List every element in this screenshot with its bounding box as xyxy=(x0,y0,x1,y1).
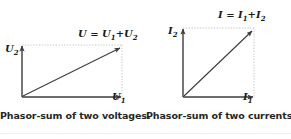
resultant-vector-u xyxy=(23,48,120,96)
x-axis-label-u1: U1 xyxy=(112,92,126,102)
caption-voltages: Phasor-sum of two voltages. xyxy=(0,110,145,121)
panel-currents: I = I1+I2 I2 I1 Phasor-sum of two curren… xyxy=(146,0,291,139)
resultant-label-voltage: U = U1+U2 xyxy=(78,29,138,39)
currents-diagram-canvas: I = I1+I2 I2 I1 xyxy=(146,0,291,110)
resultant-vector-i xyxy=(184,31,252,96)
y-axis-label-u2: U2 xyxy=(5,44,19,54)
y-axis-label-i2: I2 xyxy=(168,26,178,36)
caption-currents: Phasor-sum of two currents. xyxy=(146,110,291,121)
bottom-rule xyxy=(0,133,291,134)
panel-voltages: U = U1+U2 U2 U1 Phasor-sum of two voltag… xyxy=(0,0,145,139)
voltages-diagram-canvas: U = U1+U2 U2 U1 xyxy=(0,0,145,110)
resultant-label-current: I = I1+I2 xyxy=(218,10,266,20)
x-axis-label-i1: I1 xyxy=(243,92,253,102)
phasor-diagram-figure: U = U1+U2 U2 U1 Phasor-sum of two voltag… xyxy=(0,0,291,139)
